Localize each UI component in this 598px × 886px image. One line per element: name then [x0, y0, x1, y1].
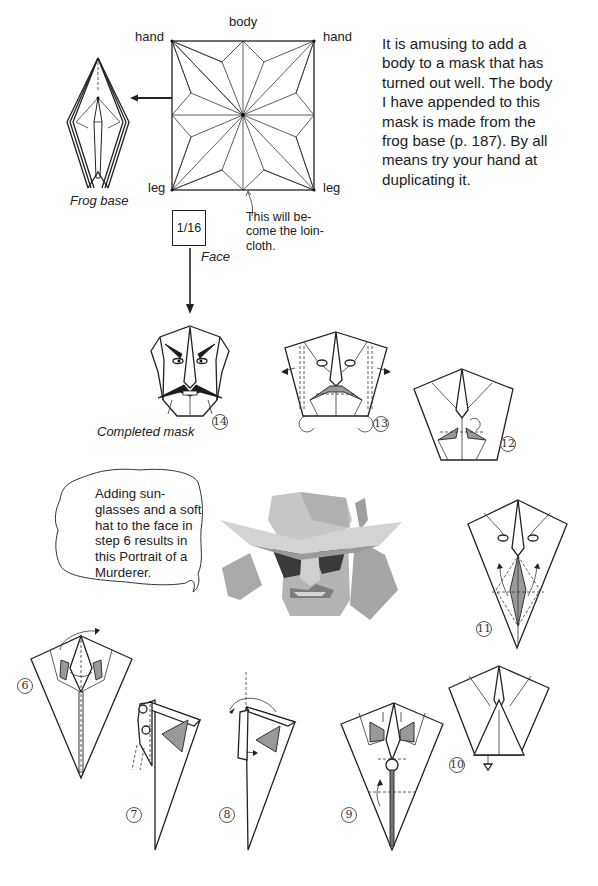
step-number-13: 13	[373, 416, 389, 432]
bubble-line: hat to the face in	[95, 518, 201, 534]
intro-paragraph: It is amusing to add a body to a mask th…	[382, 34, 592, 189]
step-9-diagram	[341, 703, 443, 850]
intro-line: means try your hand at	[382, 150, 592, 169]
intro-line: turned out well. The body	[382, 73, 592, 92]
intro-line: body to a mask that has	[382, 53, 592, 72]
intro-line: It is amusing to add a	[382, 34, 592, 53]
step-number-8: 8	[219, 807, 235, 823]
step-number-7: 7	[126, 807, 142, 823]
intro-line: mask is made from the	[382, 112, 592, 131]
step-10-diagram	[449, 666, 549, 770]
loincloth-note-line: cloth.	[246, 239, 324, 253]
speech-bubble-text: Adding sun- glasses and a soft hat to th…	[95, 486, 201, 581]
step-number-10: 10	[449, 757, 465, 773]
label-hand-right: hand	[323, 29, 352, 44]
bubble-line: Adding sun-	[95, 486, 201, 502]
label-leg-right: leg	[323, 180, 340, 195]
completed-mask-diagram	[151, 326, 229, 416]
step-number-12: 12	[500, 436, 516, 452]
bubble-line: glasses and a soft	[95, 502, 201, 518]
intro-line: I have appended to this	[382, 92, 592, 111]
bubble-line: step 6 results in	[95, 533, 201, 549]
loincloth-note-line: This will be-	[246, 210, 324, 224]
step-number-11: 11	[476, 621, 492, 637]
bubble-line: Murderer.	[95, 565, 201, 581]
intro-line: frog base (p. 187). By all	[382, 131, 592, 150]
frog-base-diagram	[67, 58, 129, 188]
step-number-14: 14	[212, 414, 228, 430]
label-hand-left: hand	[135, 29, 164, 44]
intro-line: duplicating it.	[382, 170, 592, 189]
bubble-line: this Portrait of a	[95, 549, 201, 565]
label-leg-left: leg	[148, 180, 165, 195]
step-number-9: 9	[341, 807, 357, 823]
label-body: body	[229, 14, 257, 29]
step-8-diagram	[229, 672, 295, 850]
completed-mask-caption: Completed mask	[97, 424, 195, 439]
frog-base-caption: Frog base	[70, 193, 129, 208]
loincloth-note-line: come the loin-	[246, 224, 324, 238]
face-caption: Face	[201, 249, 230, 264]
step-12-diagram	[414, 369, 513, 460]
step-6-diagram	[31, 628, 132, 778]
step-7-diagram	[132, 700, 200, 850]
step-number-6: 6	[17, 678, 33, 694]
loincloth-note: This will be- come the loin- cloth.	[246, 210, 324, 253]
face-ratio-box: 1/16	[172, 210, 206, 246]
